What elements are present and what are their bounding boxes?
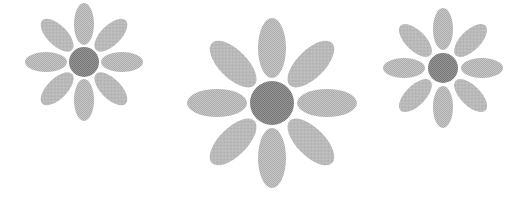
petal-shape <box>202 111 264 173</box>
petal-shape <box>35 67 79 111</box>
flower-center-shape <box>250 81 294 125</box>
petal-shape <box>74 79 94 121</box>
flower-center-shape <box>69 47 99 77</box>
petal-shape <box>258 18 286 78</box>
petal-shape <box>449 74 493 118</box>
petal-shape <box>297 89 357 117</box>
petal-shape <box>74 3 94 45</box>
petal-shape <box>394 19 438 63</box>
petal-shape <box>101 52 143 72</box>
petal-shape <box>461 58 503 78</box>
flowers-group <box>25 3 503 188</box>
petal-shape <box>35 13 79 57</box>
small-flower-left <box>25 3 143 121</box>
petal-shape <box>280 33 342 95</box>
petal-shape <box>187 89 247 117</box>
petal-shape <box>280 111 342 173</box>
petal-shape <box>25 52 67 72</box>
petal-shape <box>89 67 133 111</box>
petal-shape <box>394 74 438 118</box>
petal-shape <box>433 8 453 50</box>
petal-shape <box>449 19 493 63</box>
petal-shape <box>258 128 286 188</box>
petal-shape <box>202 33 264 95</box>
petal-shape <box>89 13 133 57</box>
flower-illustration <box>0 0 524 200</box>
petal-shape <box>433 86 453 128</box>
petal-shape <box>383 58 425 78</box>
large-flower-middle <box>187 18 357 188</box>
flower-center-shape <box>428 53 458 83</box>
small-flower-right <box>383 8 503 128</box>
